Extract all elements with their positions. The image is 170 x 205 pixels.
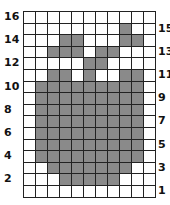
filled-cell <box>96 163 108 175</box>
empty-cell <box>36 35 48 47</box>
filled-cell <box>60 116 72 128</box>
empty-cell <box>120 186 132 198</box>
empty-cell <box>36 12 48 24</box>
filled-cell <box>132 116 144 128</box>
left-row-label: 8 <box>4 104 22 116</box>
left-row-label: 10 <box>4 81 22 93</box>
filled-cell <box>96 174 108 186</box>
empty-cell <box>108 24 120 36</box>
empty-cell <box>24 186 36 198</box>
filled-cell <box>72 93 84 105</box>
filled-cell <box>72 35 84 47</box>
empty-cell <box>48 35 60 47</box>
filled-cell <box>72 105 84 117</box>
filled-cell <box>132 70 144 82</box>
filled-cell <box>36 128 48 140</box>
empty-cell <box>36 174 48 186</box>
empty-cell <box>144 24 156 36</box>
right-row-label: 9 <box>158 92 170 104</box>
right-row-label: 11 <box>158 69 170 81</box>
filled-cell <box>96 58 108 70</box>
empty-cell <box>120 58 132 70</box>
empty-cell <box>36 70 48 82</box>
filled-cell <box>60 151 72 163</box>
empty-cell <box>84 186 96 198</box>
empty-cell <box>84 24 96 36</box>
empty-cell <box>144 128 156 140</box>
filled-cell <box>48 47 60 59</box>
filled-cell <box>72 174 84 186</box>
empty-cell <box>144 47 156 59</box>
empty-cell <box>144 82 156 94</box>
filled-cell <box>108 93 120 105</box>
empty-cell <box>36 24 48 36</box>
empty-cell <box>24 163 36 175</box>
empty-cell <box>144 186 156 198</box>
filled-cell <box>72 82 84 94</box>
empty-cell <box>96 186 108 198</box>
empty-cell <box>132 163 144 175</box>
filled-cell <box>48 151 60 163</box>
filled-cell <box>36 105 48 117</box>
filled-cell <box>60 163 72 175</box>
empty-cell <box>36 58 48 70</box>
filled-cell <box>108 128 120 140</box>
filled-cell <box>132 105 144 117</box>
empty-cell <box>24 93 36 105</box>
filled-cell <box>120 140 132 152</box>
filled-cell <box>48 82 60 94</box>
filled-cell <box>132 93 144 105</box>
empty-cell <box>24 82 36 94</box>
filled-cell <box>60 140 72 152</box>
right-row-label: 1 <box>158 185 170 197</box>
right-row-label: 3 <box>158 162 170 174</box>
empty-cell <box>48 186 60 198</box>
filled-cell <box>72 163 84 175</box>
filled-cell <box>48 128 60 140</box>
filled-cell <box>84 82 96 94</box>
empty-cell <box>108 58 120 70</box>
empty-cell <box>120 12 132 24</box>
empty-cell <box>60 58 72 70</box>
pixel-pattern-grid <box>23 11 156 198</box>
filled-cell <box>96 116 108 128</box>
empty-cell <box>96 35 108 47</box>
empty-cell <box>132 12 144 24</box>
empty-cell <box>144 163 156 175</box>
empty-cell <box>144 93 156 105</box>
filled-cell <box>108 82 120 94</box>
empty-cell <box>24 174 36 186</box>
filled-cell <box>84 140 96 152</box>
empty-cell <box>72 186 84 198</box>
filled-cell <box>120 151 132 163</box>
filled-cell <box>108 163 120 175</box>
empty-cell <box>60 186 72 198</box>
filled-cell <box>96 105 108 117</box>
empty-cell <box>144 174 156 186</box>
filled-cell <box>120 105 132 117</box>
filled-cell <box>72 151 84 163</box>
filled-cell <box>48 140 60 152</box>
empty-cell <box>132 58 144 70</box>
left-row-label: 12 <box>4 57 22 69</box>
left-row-label: 2 <box>4 173 22 185</box>
left-row-label: 16 <box>4 11 22 23</box>
filled-cell <box>72 140 84 152</box>
filled-cell <box>84 151 96 163</box>
filled-cell <box>96 128 108 140</box>
empty-cell <box>132 47 144 59</box>
empty-cell <box>72 12 84 24</box>
filled-cell <box>108 174 120 186</box>
filled-cell <box>72 116 84 128</box>
empty-cell <box>48 58 60 70</box>
empty-cell <box>144 35 156 47</box>
empty-cell <box>24 140 36 152</box>
filled-cell <box>120 24 132 36</box>
empty-cell <box>108 35 120 47</box>
filled-cell <box>132 140 144 152</box>
filled-cell <box>108 105 120 117</box>
filled-cell <box>108 47 120 59</box>
empty-cell <box>84 35 96 47</box>
filled-cell <box>96 151 108 163</box>
filled-cell <box>96 47 108 59</box>
